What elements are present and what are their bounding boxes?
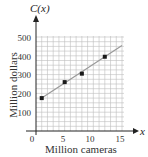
function-label: C(x) <box>30 2 50 14</box>
x-variable-label: x <box>140 125 145 137</box>
data-point <box>80 72 84 76</box>
y-axis-label: Million dollars <box>7 50 19 120</box>
x-axis-arrow-icon <box>133 128 139 134</box>
data-point <box>103 55 107 59</box>
chart-container: C(x) x 500 400 300 200 100 0 5 10 15 Mil… <box>0 0 148 157</box>
x-axis-label: Million cameras <box>36 143 126 155</box>
y-axis-arrow-icon <box>33 15 39 22</box>
data-point <box>40 96 44 100</box>
y-tick-label: 500 <box>5 33 31 43</box>
data-point <box>63 80 67 84</box>
